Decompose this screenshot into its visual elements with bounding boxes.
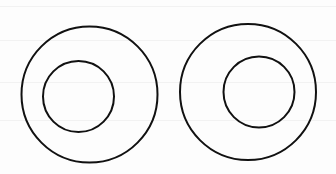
right-outer-circle <box>180 24 316 160</box>
left-inner-circle <box>43 61 114 132</box>
right-inner-circle <box>224 57 295 128</box>
circles-figure <box>0 0 336 174</box>
diagram-canvas <box>0 0 336 174</box>
right-circle-pair <box>180 24 316 160</box>
left-outer-circle <box>22 27 158 163</box>
left-circle-pair <box>22 27 158 163</box>
